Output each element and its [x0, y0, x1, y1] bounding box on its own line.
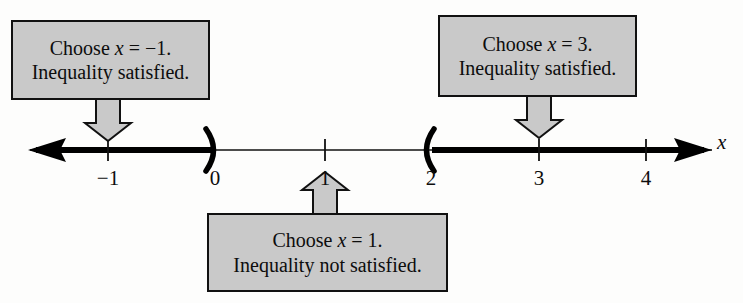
callout-neg1-line1: Choose x = −1.	[50, 36, 171, 60]
tick-label-2: 2	[426, 166, 437, 191]
axis-variable-label: x	[717, 130, 726, 155]
variable-x: x	[547, 33, 556, 55]
tick-label-4: 4	[641, 166, 652, 191]
variable-x: x	[115, 37, 124, 59]
variable-x: x	[337, 229, 346, 251]
callout-3-line1: Choose x = 3.	[482, 32, 592, 56]
callout-neg1-line2: Inequality satisfied.	[32, 60, 190, 84]
tick-label-neg1: −1	[97, 166, 119, 191]
callout-choose-x-1: Choose x = 1. Inequality not satisfied.	[207, 213, 448, 292]
callout-pointer-neg1	[85, 99, 131, 141]
callout-pointer-3	[516, 96, 562, 138]
callout-choose-x-neg1: Choose x = −1. Inequality satisfied.	[11, 20, 210, 100]
tick-label-0: 0	[210, 166, 221, 191]
callout-3-line2: Inequality satisfied.	[459, 56, 617, 80]
callout-1-line1: Choose x = 1.	[272, 228, 382, 252]
callout-choose-x-3: Choose x = 3. Inequality satisfied.	[438, 15, 637, 97]
tick-label-3: 3	[534, 166, 545, 191]
tick-label-1: 1	[320, 166, 331, 191]
figure-canvas: Choose x = −1. Inequality satisfied. Cho…	[0, 0, 743, 303]
callout-1-line2: Inequality not satisfied.	[233, 253, 421, 277]
